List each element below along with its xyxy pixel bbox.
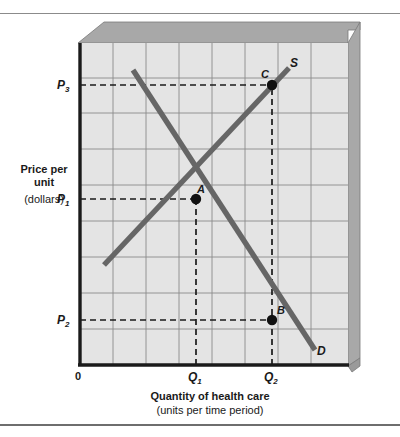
y-tick-p2: P2 — [57, 313, 69, 329]
x-axis-title: Quantity of health care — [130, 390, 290, 402]
point-label-c: C — [261, 68, 269, 80]
y-axis-title-line1: Price per — [14, 163, 74, 176]
y-axis-subtitle: (dollars) — [14, 193, 74, 205]
bevel-top — [78, 22, 360, 43]
y-axis-title-line2: unit — [14, 176, 74, 189]
y-axis-title: Price per unit — [14, 163, 74, 189]
curve-label-demand: D — [317, 344, 326, 358]
supply-demand-chart: P3 P1 P2 Price per unit (dollars) 0 Q1 Q… — [0, 0, 400, 437]
plot-background — [80, 43, 348, 365]
x-axis-subtitle: (units per time period) — [130, 404, 290, 416]
y-tick-p3: P3 — [57, 78, 69, 94]
figure-page: P3 P1 P2 Price per unit (dollars) 0 Q1 Q… — [0, 0, 400, 437]
bevel-right — [348, 22, 360, 366]
point-label-a: A — [197, 183, 205, 195]
curve-label-supply: S — [290, 56, 298, 70]
point-a-marker — [191, 194, 201, 204]
x-tick-q2: Q2 — [264, 370, 278, 386]
point-c-marker — [267, 80, 277, 90]
origin-label: 0 — [75, 370, 81, 382]
point-label-b: B — [277, 304, 285, 316]
x-tick-q1: Q1 — [188, 370, 202, 386]
point-b-marker — [267, 315, 277, 325]
